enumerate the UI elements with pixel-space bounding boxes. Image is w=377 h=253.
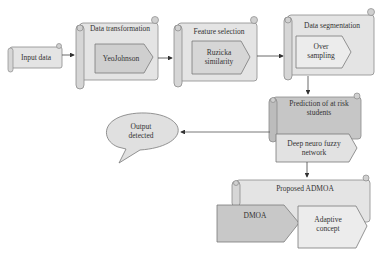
- deep-neuro-fuzzy-label: Deep neuro fuzzy network: [282, 139, 346, 157]
- feature-selection-title: Feature selection: [184, 27, 254, 36]
- prediction-title: Prediction of at risk students: [280, 99, 358, 117]
- output-detected-label: Output detected: [122, 122, 160, 140]
- input-data-label: Input data: [12, 53, 60, 62]
- ruzicka-similarity-label: Ruzicka similarity: [200, 48, 238, 66]
- yeojohnson-label: YeoJohnson: [96, 54, 146, 63]
- data-segmentation-title: Data segmentation: [294, 21, 370, 30]
- proposed-admoa-title: Proposed ADMOA: [250, 184, 360, 193]
- oversampling-label: Over sampling: [302, 42, 340, 60]
- adaptive-concept-label: Adaptive concept: [304, 215, 352, 233]
- data-transformation-title: Data transformation: [88, 24, 152, 33]
- dmoa-label: DMOA: [230, 211, 280, 220]
